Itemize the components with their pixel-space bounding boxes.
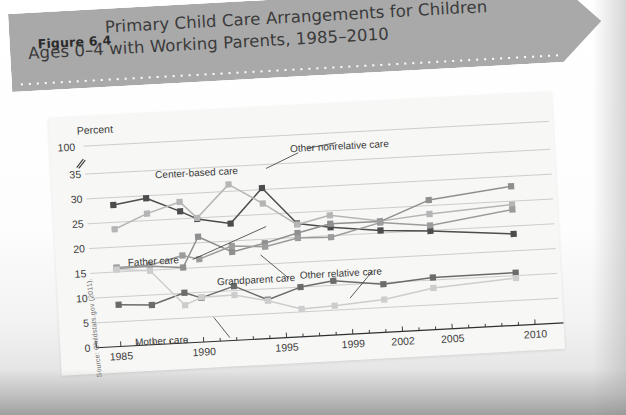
- y-tick-labels: 05101520253035: [69, 168, 91, 354]
- photo-edge-shadow-bottom: [0, 369, 626, 415]
- figure-banner: Figure 6.4 Primary Child Care Arrangemen…: [8, 0, 603, 92]
- x-tick-label: 1995: [275, 340, 299, 353]
- x-tick-label: 1999: [341, 337, 365, 350]
- chart-card: 05101520253035 1985199019951999200220052…: [48, 91, 565, 375]
- x-tick-label: 2002: [391, 334, 415, 347]
- y-tick-label: 30: [70, 193, 82, 206]
- y-tick-label: 0: [84, 342, 91, 354]
- x-tick-label: 1985: [109, 349, 133, 362]
- x-tick-label: 2010: [524, 327, 548, 340]
- photo-edge-shadow-right: [592, 0, 626, 415]
- y-axis-top-value: 100: [57, 141, 75, 154]
- annotation-layer: Center-based careOther nonrelative careF…: [122, 138, 399, 348]
- line-chart: 05101520253035 1985199019951999200220052…: [48, 91, 565, 375]
- annotation-label: Other nonrelative care: [290, 138, 390, 154]
- axis-break-icon: [76, 159, 85, 168]
- annotation-label: Center-based care: [155, 165, 239, 180]
- y-tick-label: 25: [72, 217, 84, 230]
- y-axis-label: Percent: [76, 123, 113, 137]
- y-tick-label: 20: [73, 242, 85, 255]
- x-tick-label: 2005: [441, 332, 465, 345]
- y-tick-label: 35: [69, 168, 81, 181]
- annotation-label: Mother care: [135, 334, 189, 348]
- y-tick-label: 5: [83, 317, 90, 329]
- photo-page: Figure 6.4 Primary Child Care Arrangemen…: [0, 0, 626, 415]
- annotation-label: Other relative care: [299, 265, 382, 280]
- x-tick-label: 1990: [192, 345, 216, 358]
- series-center-based-care: [110, 172, 517, 259]
- annotation-label: Father care: [128, 254, 180, 268]
- chart-svg: 05101520253035 1985199019951999200220052…: [48, 91, 565, 375]
